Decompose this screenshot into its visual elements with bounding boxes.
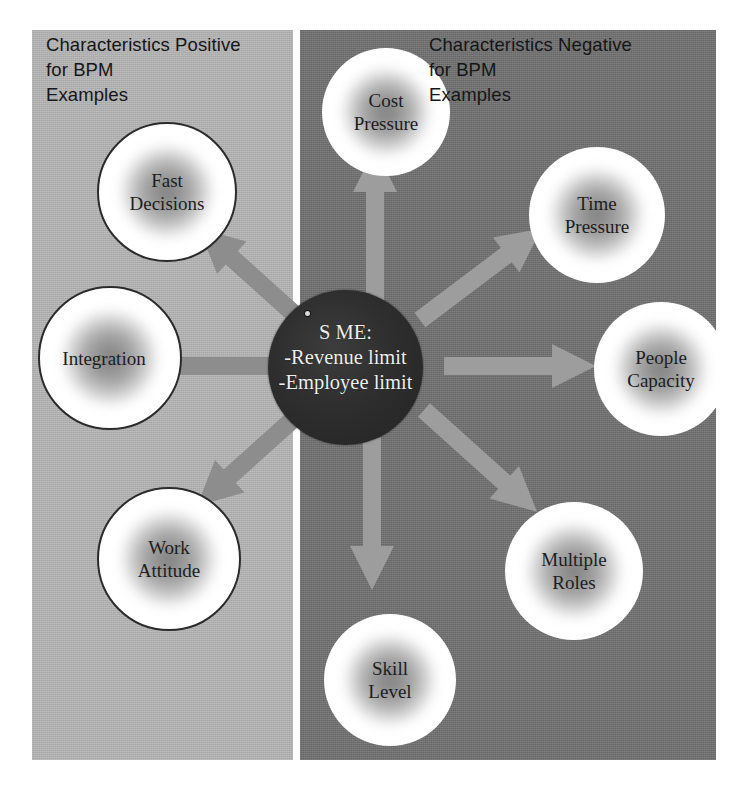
node-integration[interactable]: Integration — [38, 286, 182, 430]
node-people-capacity[interactable]: People Capacity — [594, 302, 716, 436]
node-multiple-roles[interactable]: Multiple Roles — [505, 502, 643, 640]
node-label: Time Pressure — [565, 192, 629, 238]
heading-positive: Characteristics Positive for BPM Example… — [46, 32, 241, 107]
node-skill-level[interactable]: Skill Level — [324, 614, 456, 746]
center-marker-dot — [305, 311, 310, 316]
node-sme-center[interactable]: S ME: -Revenue limit -Employee limit — [268, 290, 423, 445]
heading-negative: Characteristics Negative for BPM Example… — [429, 32, 632, 107]
node-work-attitude[interactable]: Work Attitude — [97, 487, 241, 631]
node-label: Cost Pressure — [354, 89, 418, 135]
node-label: Multiple Roles — [541, 548, 606, 594]
node-label: Integration — [62, 347, 145, 370]
node-label: Fast Decisions — [130, 169, 205, 215]
node-time-pressure[interactable]: Time Pressure — [529, 147, 665, 283]
node-label: Work Attitude — [138, 536, 200, 582]
node-fast-decisions[interactable]: Fast Decisions — [97, 122, 237, 262]
node-label: People Capacity — [627, 346, 695, 392]
node-label: Skill Level — [368, 657, 411, 703]
diagram-canvas: Fast Decisions Integration Work Attitude… — [0, 0, 744, 792]
center-label: S ME: -Revenue limit -Employee limit — [268, 320, 423, 395]
